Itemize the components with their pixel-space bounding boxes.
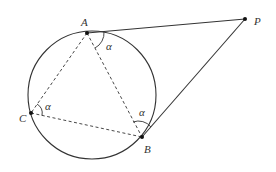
label-c: C bbox=[19, 112, 27, 124]
point-b bbox=[140, 135, 144, 139]
geometry-diagram: A B C P α α α bbox=[0, 0, 276, 172]
point-a bbox=[85, 31, 89, 35]
angle-arc-a bbox=[95, 32, 104, 49]
circle bbox=[28, 31, 156, 159]
angle-arc-c bbox=[37, 104, 42, 116]
angle-label-c: α bbox=[45, 100, 51, 112]
chord-cb bbox=[31, 113, 142, 137]
angle-label-a: α bbox=[106, 40, 112, 52]
label-b: B bbox=[144, 143, 151, 155]
point-p bbox=[243, 17, 247, 21]
tangent-line-ap bbox=[87, 19, 245, 33]
point-c bbox=[29, 111, 33, 115]
label-p: P bbox=[253, 15, 261, 27]
label-a: A bbox=[80, 16, 88, 28]
tangent-line-bp bbox=[142, 19, 245, 137]
chord-ac bbox=[31, 33, 87, 113]
angle-label-b: α bbox=[139, 106, 145, 118]
